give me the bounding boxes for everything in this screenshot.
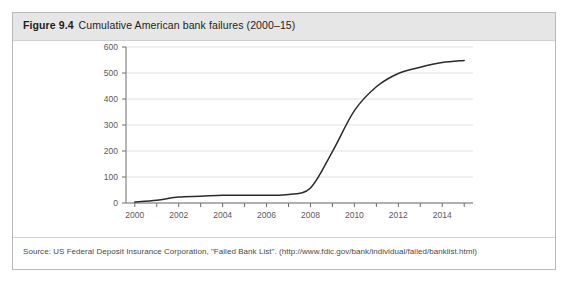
y-axis bbox=[122, 47, 126, 203]
y-tick-labels: 0100200300400500600 bbox=[104, 42, 118, 208]
x-tick-label: 2010 bbox=[345, 210, 364, 220]
figure-number: Figure 9.4 bbox=[23, 19, 74, 31]
x-tick-label: 2002 bbox=[169, 210, 188, 220]
x-tick-label: 2008 bbox=[301, 210, 320, 220]
figure-header-band: Figure 9.4Cumulative American bank failu… bbox=[13, 13, 555, 41]
y-tick-label: 100 bbox=[104, 172, 118, 182]
x-tick-label: 2006 bbox=[257, 210, 276, 220]
x-tick-labels: 20002002200420062008201020122014 bbox=[125, 210, 452, 220]
x-tick-label: 2000 bbox=[125, 210, 144, 220]
x-tick-label: 2014 bbox=[433, 210, 452, 220]
chart-plot-region: 0100200300400500600 20002002200420062008… bbox=[13, 41, 555, 237]
y-tick-label: 200 bbox=[104, 146, 118, 156]
line-chart: 0100200300400500600 20002002200420062008… bbox=[13, 41, 555, 235]
source-note: Source: US Federal Deposit Insurance Cor… bbox=[23, 247, 477, 256]
figure-caption: Figure 9.4Cumulative American bank failu… bbox=[23, 19, 295, 31]
figure-title: Cumulative American bank failures (2000–… bbox=[79, 19, 296, 31]
x-axis bbox=[126, 203, 473, 207]
data-series-line bbox=[135, 61, 464, 202]
y-tick-label: 400 bbox=[104, 94, 118, 104]
x-tick-label: 2004 bbox=[213, 210, 232, 220]
y-tick-label: 600 bbox=[104, 42, 118, 52]
gridlines bbox=[126, 47, 473, 203]
figure-footer-band: Source: US Federal Deposit Insurance Cor… bbox=[13, 237, 555, 269]
y-tick-label: 300 bbox=[104, 120, 118, 130]
y-tick-label: 0 bbox=[113, 198, 118, 208]
figure-frame: Figure 9.4Cumulative American bank failu… bbox=[12, 12, 556, 270]
y-tick-label: 500 bbox=[104, 68, 118, 78]
x-tick-label: 2012 bbox=[389, 210, 408, 220]
